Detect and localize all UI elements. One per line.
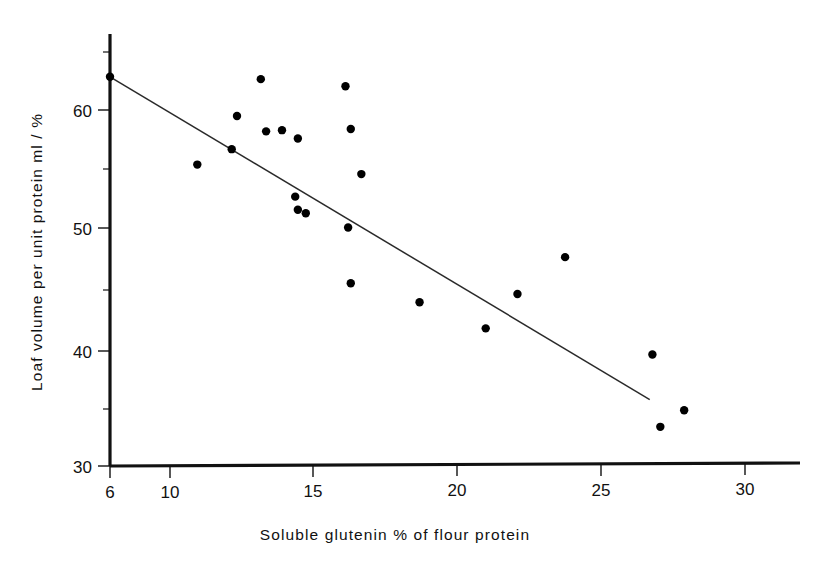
x-tick-label-20: 20 [448,481,467,500]
data-point [648,350,656,358]
data-point [302,209,310,217]
data-point [561,253,569,261]
data-point [415,298,423,306]
y-tick-label-50: 50 [73,220,92,239]
y-tick-label-40: 40 [73,343,92,362]
x-tick-label-25: 25 [592,481,611,500]
data-point [656,423,664,431]
data-point [193,160,201,168]
data-point [482,324,490,332]
data-point [680,406,688,414]
chart-figure: 60 50 40 30 6 10 15 20 25 30 Loaf volume… [0,0,829,569]
data-point [291,192,299,200]
data-point [341,82,349,90]
x-tick-label-30: 30 [736,480,755,499]
data-point [257,75,265,83]
data-point [513,290,521,298]
x-tick-label-15: 15 [304,482,323,501]
data-point [228,145,236,153]
data-point [347,279,355,287]
x-axis-line [110,463,800,466]
y-axis-title: Loaf volume per unit protein ml / % [28,113,45,391]
data-point [344,223,352,231]
x-tick-label-10: 10 [161,483,180,502]
data-point [357,170,365,178]
data-point [294,205,302,213]
x-tick-label-6: 6 [105,483,114,502]
y-tick-label-60: 60 [73,102,92,121]
data-point [347,125,355,133]
scatter-plot-svg: 60 50 40 30 6 10 15 20 25 30 Loaf volume… [0,0,829,569]
y-tick-label-30: 30 [73,458,92,477]
data-point [294,134,302,142]
data-point [262,127,270,135]
data-point [278,126,286,134]
y-axis-major-ticks [98,110,110,466]
x-axis-title: Soluble glutenin % of flour protein [260,526,530,543]
regression-line [110,77,650,400]
data-point [106,73,114,81]
data-point [233,112,241,120]
